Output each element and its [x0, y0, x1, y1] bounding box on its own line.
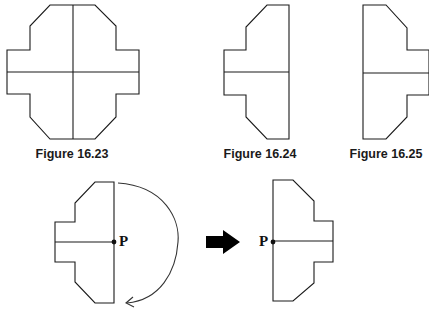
- point-p-dot: [271, 240, 276, 245]
- figure-16-25-shape: [363, 5, 429, 139]
- figure-16-25-caption: Figure 16.25: [350, 147, 423, 161]
- figure-16-24-caption: Figure 16.24: [224, 147, 297, 161]
- rotation-after-shape: [271, 180, 333, 301]
- figure-16-23-shape: [7, 5, 139, 139]
- point-p-label-after: P: [259, 233, 268, 250]
- point-p-dot: [112, 240, 117, 245]
- figure-16-24-shape: [224, 5, 289, 139]
- figure-16-23-caption: Figure 16.23: [36, 147, 109, 161]
- point-p-label-before: P: [119, 233, 128, 250]
- rotation-before-shape: [55, 182, 178, 307]
- right-arrow-icon: [206, 230, 240, 254]
